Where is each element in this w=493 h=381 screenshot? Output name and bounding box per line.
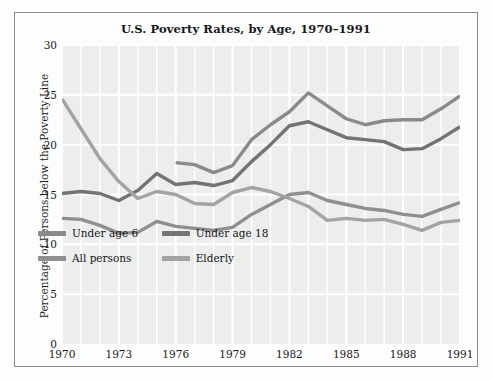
- x-tick-label: 1973: [105, 348, 132, 360]
- y-tick-label: 15: [44, 189, 57, 201]
- legend-swatch-icon: [162, 231, 190, 236]
- chart-title: U.S. Poverty Rates, by Age, 1970–1991: [14, 22, 478, 36]
- legend-item-label: All persons: [72, 252, 131, 264]
- plot-area: 051015202530 197019731976197919821985198…: [62, 45, 460, 344]
- y-tick-label: 20: [44, 139, 57, 151]
- y-tick-label: 5: [50, 288, 57, 300]
- legend-swatch-icon: [38, 231, 66, 236]
- chart-legend: Under age 6Under age 18All personsElderl…: [38, 227, 278, 264]
- x-tick-label: 1988: [390, 348, 417, 360]
- y-tick-label: 30: [44, 39, 57, 51]
- x-tick-label: 1970: [49, 348, 76, 360]
- legend-item: All persons: [38, 252, 148, 264]
- legend-item-label: Elderly: [196, 252, 234, 264]
- plot-canvas: [62, 45, 460, 344]
- legend-swatch-icon: [162, 256, 190, 261]
- y-tick-label: 25: [44, 89, 57, 101]
- legend-item: Under age 18: [162, 227, 278, 239]
- legend-item: Elderly: [162, 252, 278, 264]
- legend-item-label: Under age 18: [196, 227, 269, 239]
- x-tick-label: 1991: [447, 348, 474, 360]
- legend-item: Under age 6: [38, 227, 148, 239]
- series-line: [176, 93, 460, 173]
- figure: U.S. Poverty Rates, by Age, 1970–1991 Pe…: [0, 0, 493, 381]
- legend-item-label: Under age 6: [72, 227, 138, 239]
- x-tick-label: 1979: [219, 348, 246, 360]
- legend-swatch-icon: [38, 256, 66, 261]
- x-tick-label: 1985: [333, 348, 360, 360]
- x-tick-label: 1982: [276, 348, 303, 360]
- x-tick-label: 1976: [162, 348, 189, 360]
